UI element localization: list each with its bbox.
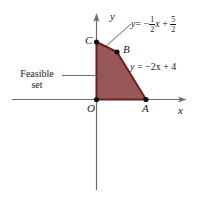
x-axis-label: x xyxy=(178,105,183,116)
vertex-label-o: O xyxy=(87,103,95,114)
equation-cb-variable: x xyxy=(155,18,159,29)
equation-cb-frac-denominator: 2 xyxy=(149,25,155,34)
equation-ba-body: = −2x + 4 xyxy=(134,61,176,72)
vertex-label-c: C xyxy=(85,35,92,46)
vertex-label-b: B xyxy=(123,44,130,55)
equation-cb-fraction-five-halves: 52 xyxy=(170,16,176,34)
equation-line-ba: y = −2x + 4 xyxy=(130,62,176,72)
equation-cb-frac2-numerator: 5 xyxy=(170,16,176,25)
vertex-dot-b xyxy=(114,49,119,54)
equation-cb-fraction-half: 12 xyxy=(149,16,155,34)
feasible-set-label-line1: Feasible xyxy=(20,68,53,79)
feasible-set-label: Feasible set xyxy=(12,68,62,90)
vertex-dot-c xyxy=(94,39,99,44)
equation-cb-frac2-denominator: 2 xyxy=(170,25,176,34)
equation-cb-frac-numerator: 1 xyxy=(149,16,155,25)
vertex-label-a: A xyxy=(142,103,149,114)
feasible-set-figure: y x C B A O Feasible set y= −12x + 52 y … xyxy=(0,0,205,203)
equation-cb-plus: + xyxy=(162,18,168,29)
feasible-set-label-line2: set xyxy=(31,79,42,90)
equation-line-cb: y= −12x + 52 xyxy=(131,16,176,34)
y-axis-label: y xyxy=(110,11,115,22)
equation-cb-equals: = − xyxy=(135,18,149,29)
